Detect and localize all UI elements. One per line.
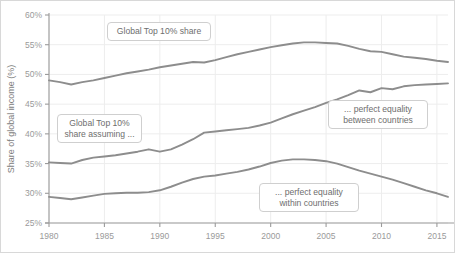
x-axis-tick-label: 1990: [150, 231, 169, 241]
x-axis-tick-label: 1985: [95, 231, 114, 241]
x-axis-tick-label: 2015: [427, 231, 446, 241]
x-axis-tick-label: 1995: [206, 231, 225, 241]
annotation-global-top-10-share: Global Top 10% share: [107, 22, 211, 41]
x-axis-tick-label: 2005: [317, 231, 336, 241]
y-axis-tick-label: 55%: [25, 40, 42, 50]
y-axis-tick-label: 60%: [25, 10, 42, 20]
data-line: [49, 42, 448, 84]
annotation-perfect-equality-within-countries: ... perfect equality within countries: [259, 183, 359, 212]
y-axis-title: Share of global income (%): [6, 65, 16, 174]
y-axis-tick-label: 50%: [25, 69, 42, 79]
y-axis-tick-label: 30%: [25, 188, 42, 198]
y-axis-tick-label: 40%: [25, 129, 42, 139]
annotation-perfect-equality-between-countries: ... perfect equality between countries: [328, 100, 428, 129]
annotation-global-top-10-share-assuming: Global Top 10% share assuming ...: [57, 114, 142, 143]
y-axis-tick-label: 25%: [25, 218, 42, 228]
y-axis-tick-label: 45%: [25, 99, 42, 109]
y-axis-tick-label: 35%: [25, 159, 42, 169]
x-axis-tick-label: 1980: [40, 231, 59, 241]
income-share-line-chart: 25%30%35%40%45%50%55%60%1980198519901995…: [0, 0, 455, 253]
x-axis-tick-label: 2000: [261, 231, 280, 241]
x-axis-tick-label: 2010: [372, 231, 391, 241]
